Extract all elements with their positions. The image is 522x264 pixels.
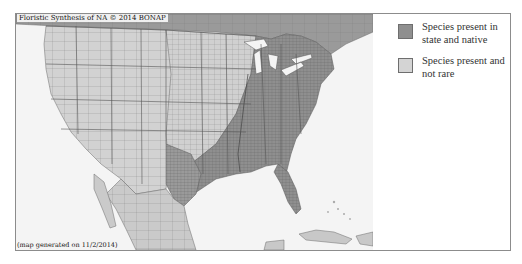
yucatan-region <box>264 240 284 250</box>
legend-swatch-native <box>398 24 413 39</box>
map-credit: Floristic Synthesis of NA © 2014 BONAP <box>17 14 168 22</box>
bahamas-islands <box>327 201 351 220</box>
hispaniola-region <box>356 232 373 246</box>
legend-label-native: Species present in state and native <box>422 20 512 46</box>
legend-item-not-rare: Species present and not rare <box>396 56 510 90</box>
legend-label-not-rare: Species present and not rare <box>422 54 512 80</box>
map-graphic <box>16 14 373 250</box>
cuba-region <box>299 230 352 244</box>
map-frame: Floristic Synthesis of NA © 2014 BONAP (… <box>15 13 511 251</box>
distribution-map: Floristic Synthesis of NA © 2014 BONAP (… <box>16 14 373 250</box>
map-legend: Species present in state and native Spec… <box>396 22 510 90</box>
map-generated-date: (map generated on 11/2/2014) <box>17 241 118 249</box>
legend-item-native: Species present in state and native <box>396 22 510 56</box>
legend-swatch-not-rare <box>398 58 413 73</box>
